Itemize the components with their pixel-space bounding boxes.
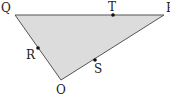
point-t-label: T — [108, 0, 116, 14]
vertex-o-label: O — [56, 83, 66, 97]
point-r-label: R — [26, 48, 36, 62]
point-s-label: S — [94, 62, 102, 76]
point-r-dot — [36, 46, 40, 50]
vertex-q-label: Q — [1, 1, 11, 15]
vertex-p-label: P — [166, 1, 170, 15]
triangle-diagram: Q P O T R S — [0, 0, 170, 97]
